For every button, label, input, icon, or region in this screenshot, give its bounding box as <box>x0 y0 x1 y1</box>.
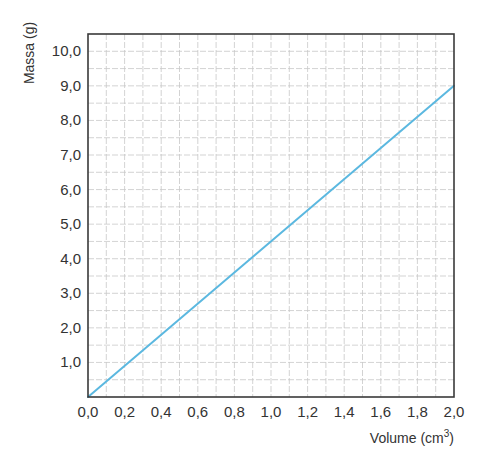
grid-lines <box>88 34 454 397</box>
x-tick-label: 1,6 <box>370 403 391 420</box>
x-axis-label-close: ) <box>449 430 454 446</box>
y-tick-label: 1,0 <box>60 353 81 370</box>
x-tick-label: 1,8 <box>407 403 428 420</box>
y-axis-label: Massa (g) <box>21 22 37 84</box>
x-tick-label: 1,4 <box>334 403 355 420</box>
x-axis-label-base: Volume (cm <box>370 430 444 446</box>
y-tick-label: 9,0 <box>60 77 81 94</box>
y-tick-label: 8,0 <box>60 111 81 128</box>
x-tick-label: 2,0 <box>444 403 465 420</box>
x-tick-label: 0,2 <box>114 403 135 420</box>
y-tick-label: 5,0 <box>60 215 81 232</box>
y-tick-label: 3,0 <box>60 284 81 301</box>
y-tick-label: 10,0 <box>52 42 81 59</box>
y-tick-label: 7,0 <box>60 146 81 163</box>
chart: 0,00,20,40,60,81,01,21,41,61,82,0 1,02,0… <box>0 0 478 465</box>
y-axis-ticks: 1,02,03,04,05,06,07,08,09,010,0 <box>52 42 81 370</box>
x-tick-label: 1,2 <box>297 403 318 420</box>
y-tick-label: 2,0 <box>60 319 81 336</box>
y-tick-label: 6,0 <box>60 181 81 198</box>
x-tick-label: 0,6 <box>187 403 208 420</box>
y-tick-label: 4,0 <box>60 250 81 267</box>
x-axis-ticks: 0,00,20,40,60,81,01,21,41,61,82,0 <box>78 403 465 420</box>
x-tick-label: 1,0 <box>261 403 282 420</box>
x-tick-label: 0,8 <box>224 403 245 420</box>
x-axis-label: Volume (cm3) <box>370 428 454 446</box>
x-tick-label: 0,4 <box>151 403 172 420</box>
x-tick-label: 0,0 <box>78 403 99 420</box>
